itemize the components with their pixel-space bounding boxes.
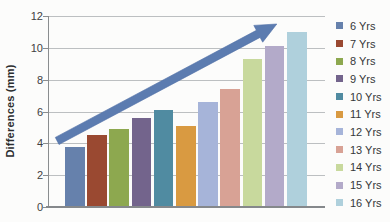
legend-label: 12 Yrs — [350, 126, 382, 138]
bar-15-yrs — [265, 46, 285, 207]
bar-8-yrs — [109, 129, 129, 207]
legend-item-6-yrs: 6 Yrs — [336, 17, 382, 35]
bar-6-yrs — [65, 147, 85, 208]
legend-item-16-yrs: 16 Yrs — [336, 194, 382, 212]
legend-swatch-icon — [336, 164, 343, 171]
bar-10-yrs — [154, 110, 174, 207]
legend-item-11-yrs: 11 Yrs — [336, 105, 382, 123]
legend-label: 11 Yrs — [350, 108, 381, 120]
bar-12-yrs — [198, 102, 218, 207]
legend-swatch-icon — [336, 75, 343, 82]
legend-item-10-yrs: 10 Yrs — [336, 88, 382, 106]
legend-swatch-icon — [336, 146, 343, 153]
legend-item-9-yrs: 9 Yrs — [336, 70, 382, 88]
bar-7-yrs — [87, 135, 107, 207]
legend-swatch-icon — [336, 128, 343, 135]
legend-item-13-yrs: 13 Yrs — [336, 141, 382, 159]
bar-9-yrs — [132, 118, 152, 207]
legend-item-12-yrs: 12 Yrs — [336, 123, 382, 141]
y-tick-label: 0 — [13, 201, 43, 213]
legend-label: 16 Yrs — [350, 197, 382, 209]
y-tick-label: 10 — [13, 42, 43, 54]
bar-14-yrs — [243, 59, 263, 207]
bar-16-yrs — [287, 32, 307, 207]
legend-item-7-yrs: 7 Yrs — [336, 35, 382, 53]
legend-label: 8 Yrs — [350, 55, 375, 67]
legend-label: 7 Yrs — [350, 38, 375, 50]
legend-item-8-yrs: 8 Yrs — [336, 52, 382, 70]
legend: 6 Yrs7 Yrs8 Yrs9 Yrs10 Yrs11 Yrs12 Yrs13… — [336, 17, 382, 212]
legend-swatch-icon — [336, 93, 343, 100]
y-tick-label: 12 — [13, 10, 43, 22]
legend-swatch-icon — [336, 58, 343, 65]
y-tick-label: 6 — [13, 106, 43, 118]
y-axis-line — [48, 16, 49, 207]
bar-chart: Differences (mm) 024681012 6 Yrs7 Yrs8 Y… — [0, 0, 390, 222]
y-tick-label: 4 — [13, 137, 43, 149]
legend-item-14-yrs: 14 Yrs — [336, 159, 382, 177]
legend-swatch-icon — [336, 199, 343, 206]
legend-swatch-icon — [336, 40, 343, 47]
x-axis-line — [46, 206, 325, 208]
legend-swatch-icon — [336, 22, 343, 29]
legend-label: 9 Yrs — [350, 73, 375, 85]
legend-label: 14 Yrs — [350, 161, 382, 173]
y-tick-label: 2 — [13, 169, 43, 181]
bar-13-yrs — [220, 89, 240, 207]
legend-swatch-icon — [336, 182, 343, 189]
legend-label: 6 Yrs — [350, 20, 375, 32]
gridline — [48, 16, 325, 17]
legend-label: 13 Yrs — [350, 144, 382, 156]
legend-label: 10 Yrs — [350, 91, 382, 103]
legend-swatch-icon — [336, 111, 343, 118]
bar-11-yrs — [176, 126, 196, 207]
y-tick-label: 8 — [13, 74, 43, 86]
legend-item-15-yrs: 15 Yrs — [336, 176, 382, 194]
legend-label: 15 Yrs — [350, 179, 382, 191]
